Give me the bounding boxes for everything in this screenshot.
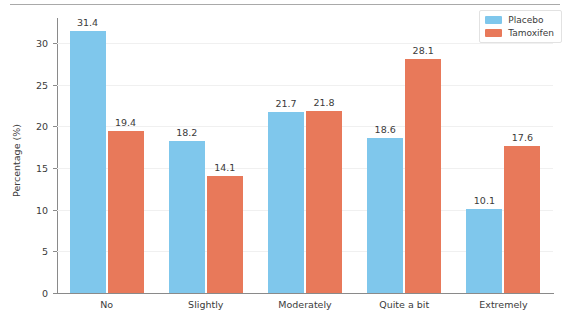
chart-screenshot: Percentage (%) 051015202530 31.419.418.2… <box>0 0 570 325</box>
y-tick-label: 0 <box>42 288 48 299</box>
bar-placebo-extremely[interactable] <box>466 209 502 293</box>
y-tick-label: 30 <box>36 38 48 49</box>
legend-swatch-placebo-icon <box>485 16 502 24</box>
x-tick-label-slightly: Slightly <box>188 299 223 310</box>
x-tick-label-no: No <box>100 299 113 310</box>
bar-group: 10.117.6 <box>57 18 553 293</box>
y-tick-label: 10 <box>36 204 48 215</box>
legend-swatch-tamoxifen-icon <box>485 29 502 37</box>
y-axis-title: Percentage (%) <box>11 101 22 221</box>
legend-label-tamoxifen: Tamoxifen <box>508 28 554 38</box>
x-axis-spine <box>57 293 554 294</box>
bar-value-label: 10.1 <box>474 195 495 206</box>
y-tick-label: 5 <box>42 246 48 257</box>
y-tick-mark <box>53 293 57 294</box>
chart-legend: Placebo Tamoxifen <box>479 10 562 43</box>
legend-item-tamoxifen[interactable]: Tamoxifen <box>485 28 554 38</box>
x-tick-label-quite-a-bit: Quite a bit <box>379 299 429 310</box>
legend-item-placebo[interactable]: Placebo <box>485 15 554 25</box>
y-tick-label: 20 <box>36 121 48 132</box>
legend-label-placebo: Placebo <box>508 15 543 25</box>
y-tick-label: 25 <box>36 79 48 90</box>
x-tick-label-extremely: Extremely <box>479 299 527 310</box>
bar-tamoxifen-extremely[interactable] <box>504 146 540 293</box>
bar-chart-figure: Percentage (%) 051015202530 31.419.418.2… <box>0 0 570 325</box>
x-tick-label-moderately: Moderately <box>278 299 331 310</box>
y-tick-label: 15 <box>36 163 48 174</box>
bar-value-label: 17.6 <box>512 132 533 143</box>
plot-area: 31.419.418.214.121.721.818.628.110.117.6 <box>57 18 553 293</box>
